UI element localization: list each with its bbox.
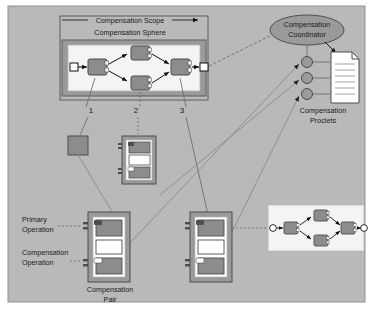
compensation-pair-right bbox=[185, 212, 232, 282]
pair-middle-white-box bbox=[96, 240, 122, 254]
sphere-start-place bbox=[70, 63, 78, 71]
mini-task-b-upper bbox=[314, 210, 329, 221]
compensation-operation-label-line1: Compensation bbox=[22, 248, 68, 257]
mini-task-c bbox=[341, 222, 356, 234]
primary-operation-label-line1: Primary bbox=[22, 215, 47, 224]
proclet-circle-3 bbox=[302, 89, 313, 100]
coordinator-label-line2: Coordinator bbox=[288, 30, 326, 39]
plain-activity-square bbox=[68, 136, 88, 155]
mini-end-place bbox=[361, 225, 368, 232]
sphere-task-b-lower bbox=[131, 76, 152, 90]
compensation-scope-label: Compensation Scope bbox=[96, 16, 165, 25]
proclets-label-line2: Proclets bbox=[310, 116, 336, 125]
compensation-proclets-document bbox=[331, 52, 359, 103]
number-1-label: 1 bbox=[89, 106, 94, 115]
compensation-pair-middle bbox=[118, 136, 156, 184]
sphere-end-place bbox=[200, 63, 208, 71]
primary-operation-label-line2: Operation bbox=[22, 225, 54, 234]
mini-start-place bbox=[270, 225, 277, 232]
number-2-label: 2 bbox=[134, 106, 139, 115]
sphere-task-b-upper bbox=[131, 46, 152, 60]
proclet-circle-2 bbox=[302, 73, 313, 84]
coordinator-label-line1: Compensation bbox=[284, 20, 330, 29]
proclets-label-line1: Compensation bbox=[300, 106, 346, 115]
proclet-circle-1 bbox=[302, 57, 313, 68]
compensation-sphere-label: Compensation Sphere bbox=[94, 28, 166, 37]
number-3-label: 3 bbox=[180, 106, 185, 115]
compensation-pair-label-line1: Compensation bbox=[87, 285, 133, 294]
compensation-operation-label-line2: Operation bbox=[22, 258, 54, 267]
sphere-task-a bbox=[88, 59, 109, 75]
compensation-pair-label-line2: Pair bbox=[104, 295, 117, 304]
mini-task-a bbox=[284, 222, 299, 234]
diagram-canvas: Compensation Scope Compensation Sphere 1 bbox=[0, 0, 381, 322]
compensation-pair-main bbox=[83, 212, 130, 282]
sphere-task-c bbox=[171, 59, 192, 75]
mini-task-b-lower bbox=[314, 235, 329, 246]
